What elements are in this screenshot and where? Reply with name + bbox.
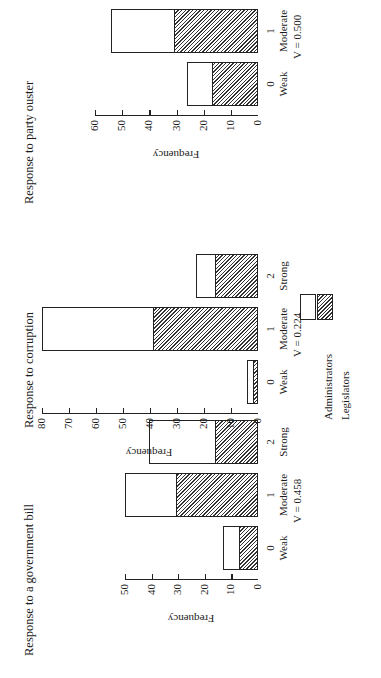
- bar-segment-legislators: [253, 360, 258, 404]
- bar-segment-administrators: [42, 307, 154, 351]
- y-tick-label: 10: [224, 120, 236, 144]
- bar-segment-administrators: [187, 62, 212, 106]
- y-tick-label: 50: [116, 418, 128, 442]
- bar-segment-administrators: [196, 254, 216, 298]
- category-label: Strong: [277, 246, 289, 306]
- y-tick-label: 30: [170, 120, 182, 144]
- y-tick-label: 70: [62, 418, 74, 442]
- chart-panel: Response to party ouster0102030405060Fre…: [0, 0, 381, 226]
- y-tick: [42, 408, 43, 414]
- legend-swatch-legislators: [317, 294, 333, 320]
- category-label: Strong: [277, 0, 289, 8]
- y-tick-label: 50: [115, 120, 127, 144]
- y-tick: [204, 110, 205, 116]
- stacked-bar: [196, 254, 258, 298]
- y-tick: [177, 408, 178, 414]
- y-tick-label: 40: [143, 418, 155, 442]
- bar-segment-administrators: [111, 9, 174, 53]
- figure: Response to a government bill01020304050…: [0, 0, 381, 678]
- y-tick-label: 10: [224, 418, 236, 442]
- y-tick-label: 50: [118, 584, 130, 608]
- category-number: 0: [264, 528, 276, 568]
- y-tick-label: 20: [198, 584, 210, 608]
- bar-segment-administrators: [223, 526, 240, 570]
- y-tick: [149, 110, 150, 116]
- y-tick-label: 0: [251, 584, 263, 608]
- category-number: 1: [264, 475, 276, 515]
- category-label: Weak: [277, 352, 289, 412]
- category-label: Moderate: [277, 465, 289, 525]
- y-tick-label: 40: [145, 584, 157, 608]
- y-tick-label: 60: [88, 120, 100, 144]
- y-tick: [204, 408, 205, 414]
- category-label: Weak: [277, 54, 289, 114]
- legend-label: Administrators: [322, 354, 334, 420]
- y-tick: [150, 408, 151, 414]
- y-tick: [96, 408, 97, 414]
- category-label: Moderate: [277, 1, 289, 61]
- stacked-bar: [187, 62, 258, 106]
- y-tick-label: 30: [171, 584, 183, 608]
- bar-segment-legislators: [215, 254, 258, 298]
- y-tick-label: 80: [35, 418, 47, 442]
- y-tick: [205, 574, 206, 580]
- y-tick-label: 0: [251, 120, 263, 144]
- category-number: 0: [264, 64, 276, 104]
- chart-panel: Response to a government bill01020304050…: [0, 452, 381, 678]
- cramers-v-annotation: V = 0.458: [291, 479, 303, 523]
- bar-segment-legislators: [176, 473, 258, 517]
- category-label: Moderate: [277, 299, 289, 359]
- chart-title: Response to party ouster: [22, 81, 37, 204]
- y-axis-label: Frequency: [126, 447, 172, 459]
- y-axis: [125, 579, 258, 580]
- y-tick: [231, 110, 232, 116]
- y-tick: [178, 574, 179, 580]
- y-tick: [231, 574, 232, 580]
- y-tick: [231, 408, 232, 414]
- category-number: 2: [264, 256, 276, 296]
- stacked-bar: [247, 360, 258, 404]
- y-tick-label: 0: [251, 418, 263, 442]
- y-tick: [69, 408, 70, 414]
- y-axis-label: Frequency: [167, 613, 213, 625]
- y-axis-label: Frequency: [152, 149, 198, 161]
- y-tick-label: 30: [170, 418, 182, 442]
- y-tick-label: 10: [224, 584, 236, 608]
- y-tick-label: 20: [197, 120, 209, 144]
- cramers-v-annotation: V = 0.500: [291, 15, 303, 59]
- bar-segment-legislators: [174, 9, 258, 53]
- category-number: 0: [264, 362, 276, 402]
- stacked-bar: [42, 307, 258, 351]
- bar-segment-legislators: [212, 62, 258, 106]
- stacked-bar: [111, 9, 258, 53]
- chart-title: Response to a government bill: [22, 504, 37, 656]
- bar-segment-legislators: [153, 307, 258, 351]
- legend-swatch-administrators: [300, 294, 316, 320]
- y-tick: [95, 110, 96, 116]
- y-tick-label: 60: [89, 418, 101, 442]
- stacked-bar: [125, 473, 258, 517]
- y-tick: [122, 110, 123, 116]
- bar-segment-administrators: [125, 473, 177, 517]
- y-tick-label: 40: [142, 120, 154, 144]
- legend-label: Legislators: [339, 371, 351, 420]
- chart-title: Response to corruption: [22, 312, 37, 428]
- category-label: Weak: [277, 518, 289, 578]
- stacked-bar: [223, 526, 258, 570]
- y-tick-label: 20: [197, 418, 209, 442]
- y-tick: [177, 110, 178, 116]
- category-number: 1: [264, 11, 276, 51]
- y-tick: [152, 574, 153, 580]
- bar-segment-legislators: [239, 526, 258, 570]
- category-number: 1: [264, 309, 276, 349]
- y-tick: [125, 574, 126, 580]
- y-tick: [123, 408, 124, 414]
